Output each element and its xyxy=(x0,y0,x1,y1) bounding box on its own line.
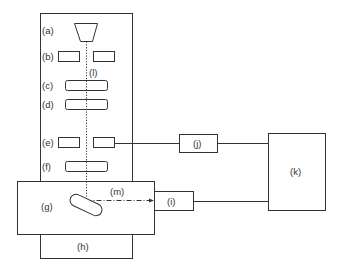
label-k: (k) xyxy=(290,166,301,177)
label-e: (e) xyxy=(42,137,54,148)
schematic-diagram: (a) (b) (l) (c) (d) (e) (f) (m) (g) (h) … xyxy=(0,0,342,268)
b-left-box xyxy=(59,52,80,62)
label-l: (l) xyxy=(89,67,97,78)
label-f: (f) xyxy=(42,161,51,172)
e-left-box xyxy=(59,138,80,148)
c-lens xyxy=(66,81,108,91)
label-i: (i) xyxy=(167,196,175,207)
e-right-box xyxy=(94,138,115,148)
label-c: (c) xyxy=(42,80,53,91)
source-trapezoid xyxy=(75,24,98,42)
label-b: (b) xyxy=(42,51,54,62)
label-m: (m) xyxy=(110,186,124,197)
label-a: (a) xyxy=(42,25,54,36)
label-h: (h) xyxy=(77,241,89,252)
label-d: (d) xyxy=(42,99,54,110)
label-j: (j) xyxy=(193,138,201,149)
b-right-box xyxy=(94,52,115,62)
label-g: (g) xyxy=(41,201,53,212)
